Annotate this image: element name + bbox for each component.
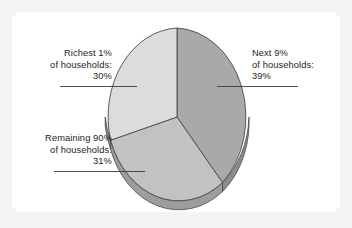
slice-label-next-9-line2: of households: <box>252 60 344 72</box>
screenshot-root: Richest 1% of households: 30% Remaining … <box>0 0 352 228</box>
slice-label-next-9-line1: Next 9% <box>252 48 344 60</box>
slice-label-remaining-90: Remaining 90% of households: 31% <box>10 133 112 168</box>
slice-label-next-9-value: 39% <box>252 71 344 83</box>
pie-top-face <box>108 28 246 201</box>
pie-chart-figure <box>0 0 352 228</box>
slice-label-remaining-90-line2: of households: <box>10 145 112 157</box>
slice-label-remaining-90-line1: Remaining 90% <box>10 133 112 145</box>
slice-label-richest-1: Richest 1% of households: 30% <box>18 48 112 83</box>
slice-label-next-9: Next 9% of households: 39% <box>252 48 344 83</box>
slice-label-remaining-90-value: 31% <box>10 156 112 168</box>
slice-label-richest-1-line1: Richest 1% <box>18 48 112 60</box>
slice-label-richest-1-line2: of households: <box>18 60 112 72</box>
slice-label-richest-1-value: 30% <box>18 71 112 83</box>
